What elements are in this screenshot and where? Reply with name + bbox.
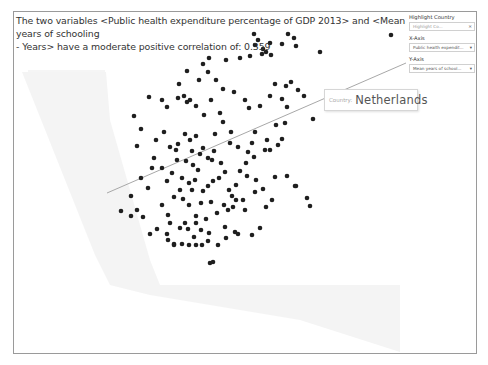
data-point[interactable] (200, 243, 205, 248)
data-point[interactable] (193, 178, 198, 183)
data-point[interactable] (273, 82, 278, 87)
data-point[interactable] (302, 94, 307, 99)
data-point[interactable] (250, 233, 255, 238)
data-point[interactable] (191, 163, 196, 168)
data-point[interactable] (178, 188, 183, 193)
data-point[interactable] (311, 117, 316, 122)
data-point[interactable] (139, 176, 144, 181)
data-point[interactable] (141, 215, 146, 220)
data-point[interactable] (194, 221, 199, 226)
data-point[interactable] (190, 188, 195, 193)
data-point[interactable] (280, 97, 285, 102)
data-point[interactable] (165, 105, 170, 110)
data-point[interactable] (234, 183, 239, 188)
data-point[interactable] (285, 105, 290, 110)
data-point[interactable] (248, 54, 253, 59)
data-point[interactable] (253, 190, 258, 195)
data-point[interactable] (258, 226, 263, 231)
data-point[interactable] (226, 208, 231, 213)
data-point[interactable] (206, 184, 211, 189)
data-point[interactable] (204, 217, 209, 222)
data-point[interactable] (135, 208, 140, 213)
data-point[interactable] (215, 211, 220, 216)
data-point[interactable] (228, 141, 233, 146)
data-point[interactable] (119, 209, 124, 214)
data-point[interactable] (185, 69, 190, 74)
data-point[interactable] (175, 158, 180, 163)
data-point[interactable] (269, 53, 274, 58)
data-point[interactable] (198, 152, 203, 157)
data-point[interactable] (165, 179, 170, 184)
data-point[interactable] (213, 132, 218, 137)
data-point[interactable] (150, 166, 155, 171)
x-axis-select[interactable]: Public health expendit... ▾ (409, 43, 475, 52)
data-point[interactable] (201, 146, 206, 151)
data-point[interactable] (243, 98, 248, 103)
data-point[interactable] (284, 84, 289, 89)
data-point[interactable] (217, 176, 222, 181)
y-axis-select[interactable]: Mean years of school... ▾ (409, 64, 475, 73)
data-point[interactable] (224, 236, 229, 241)
data-point[interactable] (190, 149, 195, 154)
data-point[interactable] (135, 144, 140, 149)
data-point[interactable] (238, 56, 243, 61)
data-point[interactable] (129, 194, 134, 199)
data-point[interactable] (268, 94, 273, 99)
data-point[interactable] (207, 231, 212, 236)
data-point[interactable] (308, 204, 313, 209)
data-point[interactable] (170, 171, 175, 176)
data-point[interactable] (165, 232, 170, 237)
data-point[interactable] (218, 111, 223, 116)
data-point[interactable] (276, 143, 281, 148)
data-point[interactable] (194, 104, 199, 109)
data-point[interactable] (199, 201, 204, 206)
data-point[interactable] (285, 174, 290, 179)
data-point[interactable] (283, 121, 288, 126)
data-point[interactable] (206, 70, 211, 75)
data-point[interactable] (296, 88, 301, 93)
data-point[interactable] (148, 232, 153, 237)
data-point[interactable] (152, 156, 157, 161)
data-point[interactable] (166, 238, 171, 243)
data-point[interactable] (147, 95, 152, 100)
data-point[interactable] (238, 169, 243, 174)
data-point[interactable] (186, 227, 191, 232)
data-point[interactable] (196, 168, 201, 173)
data-point[interactable] (245, 174, 250, 179)
data-point[interactable] (178, 226, 183, 231)
data-point[interactable] (139, 127, 144, 132)
data-point[interactable] (265, 138, 270, 143)
data-point[interactable] (273, 175, 278, 180)
data-point[interactable] (222, 203, 227, 208)
data-point[interactable] (246, 150, 251, 155)
clear-icon[interactable]: × (468, 23, 472, 30)
data-point[interactable] (160, 166, 165, 171)
data-point[interactable] (168, 221, 173, 226)
data-point[interactable] (146, 186, 151, 191)
data-point[interactable] (224, 58, 229, 63)
data-point[interactable] (194, 214, 199, 219)
data-point[interactable] (231, 205, 236, 210)
data-point[interactable] (274, 123, 279, 128)
data-point[interactable] (177, 82, 182, 87)
data-point[interactable] (184, 159, 189, 164)
data-point[interactable] (280, 137, 285, 142)
data-point[interactable] (264, 205, 269, 210)
data-point[interactable] (185, 100, 190, 105)
data-point[interactable] (305, 196, 310, 201)
data-point[interactable] (244, 161, 249, 166)
data-point[interactable] (197, 78, 202, 83)
data-point[interactable] (289, 80, 294, 85)
data-point[interactable] (234, 198, 239, 203)
data-point[interactable] (192, 235, 197, 240)
data-point[interactable] (293, 184, 298, 189)
data-point[interactable] (180, 176, 185, 181)
data-point[interactable] (160, 203, 165, 208)
data-point[interactable] (202, 113, 207, 118)
data-point[interactable] (162, 130, 167, 135)
data-point[interactable] (188, 138, 193, 143)
data-point[interactable] (183, 132, 188, 137)
data-point[interactable] (211, 179, 216, 184)
data-point[interactable] (187, 181, 192, 186)
data-point[interactable] (263, 148, 268, 153)
